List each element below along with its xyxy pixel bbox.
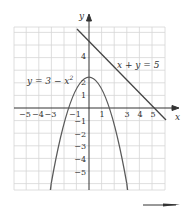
x-tick: −4 bbox=[32, 110, 44, 119]
continue-arrow-icon bbox=[143, 204, 180, 207]
x-tick: −5 bbox=[19, 110, 31, 119]
x-tick-labels: −5 −4 −3 −1 1 3 4 5 bbox=[19, 110, 155, 119]
graph-figure: y x −5 −4 −3 −1 1 3 4 5 4 2 1 −1 −2 −3 −… bbox=[0, 0, 187, 207]
x-axis-arrow-icon bbox=[172, 106, 179, 111]
y-tick: −3 bbox=[74, 142, 86, 151]
x-tick: 1 bbox=[99, 110, 104, 119]
y-tick: −1 bbox=[74, 117, 86, 126]
line-label: x + y = 5 bbox=[117, 60, 160, 70]
parabola-label: y = 3 − x2 bbox=[26, 74, 73, 86]
y-axis-arrow-icon bbox=[87, 14, 92, 21]
y-tick: −2 bbox=[74, 130, 86, 139]
y-tick: −4 bbox=[74, 155, 86, 164]
y-axis-label: y bbox=[78, 11, 85, 21]
y-tick: −5 bbox=[74, 168, 86, 177]
line-x-plus-y-5 bbox=[77, 29, 166, 120]
x-tick: 5 bbox=[150, 110, 155, 119]
x-axis-label: x bbox=[175, 112, 180, 122]
x-tick: 3 bbox=[124, 110, 129, 119]
y-tick: 4 bbox=[81, 52, 86, 61]
x-tick: −3 bbox=[45, 110, 57, 119]
x-tick: 4 bbox=[137, 110, 142, 119]
y-tick: 2 bbox=[81, 78, 86, 87]
y-tick: 1 bbox=[81, 91, 86, 100]
